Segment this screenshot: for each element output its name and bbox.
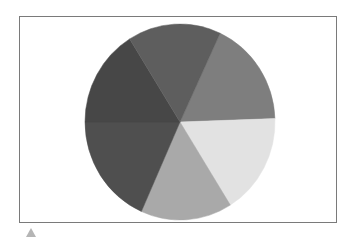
pie-chart <box>0 0 358 239</box>
triangle-marker-icon <box>26 228 36 237</box>
